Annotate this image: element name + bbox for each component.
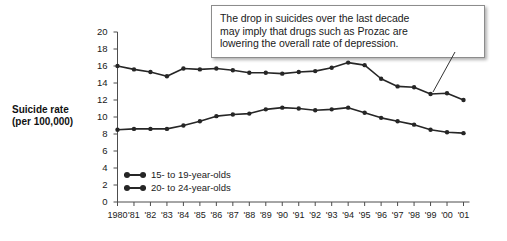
chart-container: The drop in suicides over the last decad… xyxy=(0,0,507,241)
annotation-leader-line xyxy=(0,0,507,241)
